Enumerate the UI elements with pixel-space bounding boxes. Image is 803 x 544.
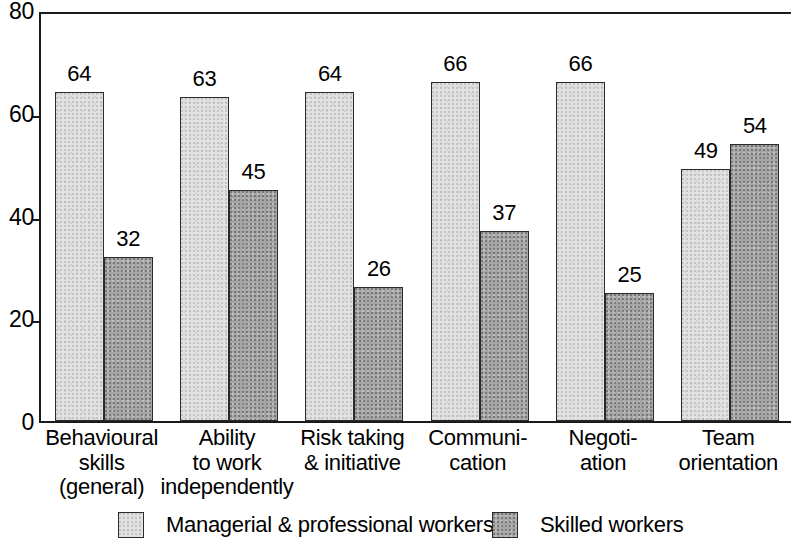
y-axis-tick-label: 60 [0,103,34,126]
bar-value-label: 32 [94,228,163,250]
bar [104,257,153,421]
bar-value-label: 37 [470,202,539,224]
bar-value-label: 64 [295,63,364,85]
bar-value-label: 63 [170,68,239,90]
category-label-line: to work [156,451,297,476]
bar-value-label: 54 [720,115,789,137]
x-axis-category-label: Communi-cation [407,426,548,475]
x-axis-category-label: Risk taking& initiative [282,426,423,475]
category-label-line: independently [156,475,297,500]
bar-value-label: 26 [344,258,413,280]
category-label-line: Behavioural [31,426,172,451]
bar-value-label: 66 [421,53,490,75]
x-axis-category-label: Behaviouralskills(general) [31,426,172,500]
y-axis-tick-label: 80 [0,0,34,23]
bar-chart: 020406080 643263456426663766254954 Behav… [0,0,803,544]
x-axis-category-label: Teamorientation [658,426,799,475]
x-axis-category-label: Abilityto workindependently [156,426,297,500]
category-label-line: cation [407,451,548,476]
bar [305,92,354,421]
category-label-line: orientation [658,451,799,476]
chart-legend: Managerial & professional workersSkilled… [0,505,803,544]
y-axis-tick-label: 20 [0,308,34,331]
category-label-line: (general) [31,475,172,500]
y-axis-tick-mark [33,116,41,118]
legend-label: Skilled workers [540,514,683,536]
legend-item[interactable]: Skilled workers [492,505,683,544]
bar-value-label: 45 [219,161,288,183]
legend-color-swatch [492,512,518,538]
legend-color-swatch [118,512,144,538]
x-axis-category-label: Negoti-ation [532,426,673,475]
y-axis-tick-mark [33,219,41,221]
category-label-line: Communi- [407,426,548,451]
y-axis-tick-labels: 020406080 [0,0,34,544]
bar [55,92,104,421]
bar [180,97,229,421]
bar [605,293,654,421]
category-label-line: skills [31,451,172,476]
category-label-line: Risk taking [282,426,423,451]
bar-value-label: 64 [45,63,114,85]
bar [730,144,779,421]
category-label-line: & initiative [282,451,423,476]
legend-item[interactable]: Managerial & professional workers [118,505,494,544]
y-axis-tick-mark [33,321,41,323]
bar-value-label: 25 [595,264,664,286]
bar [556,82,605,421]
bar [681,169,730,421]
category-label-line: ation [532,451,673,476]
bar [480,231,529,421]
x-axis-category-labels: Behaviouralskills(general)Abilityto work… [39,426,791,500]
bar [354,287,403,421]
bar-value-label: 66 [546,53,615,75]
bar [229,190,278,421]
plot-area: 643263456426663766254954 [39,12,791,423]
y-axis-tick-label: 40 [0,206,34,229]
category-label-line: Team [658,426,799,451]
bar [431,82,480,421]
category-label-line: Negoti- [532,426,673,451]
category-label-line: Ability [156,426,297,451]
plot-inner: 643263456426663766254954 [41,14,791,421]
y-axis-tick-label: 0 [0,411,34,434]
legend-label: Managerial & professional workers [166,514,494,536]
